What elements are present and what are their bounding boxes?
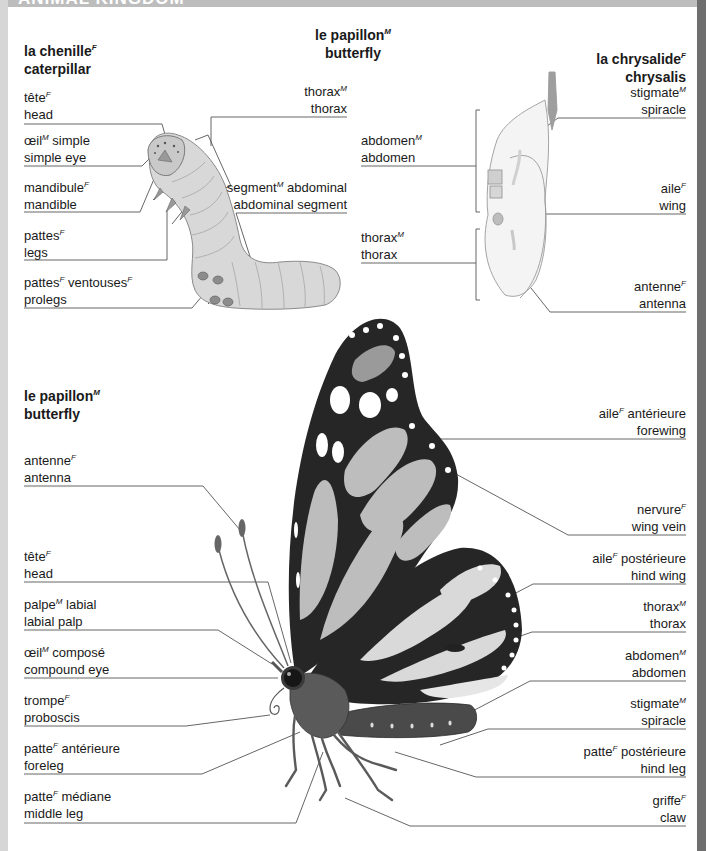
label-chrysalis-antenna: antenneF antenna [634, 278, 686, 312]
label-simple-eye: œilM simple simple eye [24, 132, 90, 166]
label-legs: pattesF legs [24, 227, 64, 261]
label-chrysalis-abdomen: abdomenM abdomen [361, 132, 422, 166]
label-caterpillar-head: têteF head [24, 89, 53, 123]
label-butterfly-head: têteF head [24, 548, 53, 582]
label-prolegs: pattesF ventousesF prolegs [24, 274, 132, 308]
label-butterfly-thorax: thoraxM thorax [643, 598, 686, 632]
label-hind-leg: patteF postérieure hind leg [584, 743, 686, 777]
butterfly-title: le papillonM butterfly [24, 387, 100, 423]
label-caterpillar-thorax: thoraxM thorax [304, 83, 347, 117]
caterpillar-illustration [148, 133, 340, 309]
label-claw: griffeF claw [652, 792, 686, 826]
label-labial-palp: palpeM labial labial palp [24, 596, 96, 630]
chrysalis-title: la chrysalideF chrysalis [596, 50, 686, 86]
caterpillar-title: la chenilleF caterpillar [24, 42, 97, 78]
label-wing-vein: nervureF wing vein [632, 501, 686, 535]
label-proboscis: trompeF proboscis [24, 692, 80, 726]
label-chrysalis-thorax: thoraxM thorax [361, 229, 404, 263]
label-chrysalis-wing: aileF wing [659, 180, 686, 214]
label-compound-eye: œilM composé compound eye [24, 644, 109, 678]
label-mandible: mandibuleF mandible [24, 179, 89, 213]
label-chrysalis-spiracle: stigmateM spiracle [630, 84, 686, 118]
label-foreleg: patteF antérieure foreleg [24, 740, 120, 774]
label-hind-wing: aileF postérieure hind wing [592, 550, 686, 584]
label-abdominal-segment: segmentM abdominal abdominal segment [227, 179, 347, 213]
butterfly-illustration [215, 319, 523, 800]
chrysalis-illustration [485, 72, 557, 298]
label-butterfly-antenna: antenneF antenna [24, 452, 76, 486]
label-middle-leg: patteF médiane middle leg [24, 788, 111, 822]
label-butterfly-abdomen: abdomenM abdomen [625, 647, 686, 681]
center-title: le papillonM butterfly [303, 26, 403, 62]
label-butterfly-spiracle: stigmateM spiracle [630, 695, 686, 729]
label-forewing: aileF antérieure forewing [599, 405, 686, 439]
